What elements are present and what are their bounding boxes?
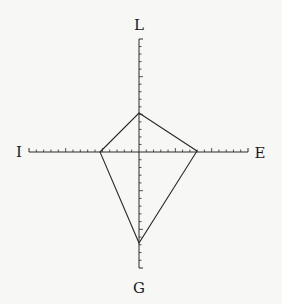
vertical-axis-ticks	[139, 47, 143, 261]
diagram-canvas	[0, 0, 282, 304]
axis-label-top: L	[134, 18, 144, 33]
axis-label-right: E	[255, 146, 266, 161]
axis-label-bottom: G	[133, 281, 145, 296]
vertical-axis	[139, 39, 143, 268]
profile-kite	[100, 113, 197, 243]
kite-diagram: L G I E	[0, 0, 282, 304]
axis-label-left: I	[16, 145, 22, 160]
